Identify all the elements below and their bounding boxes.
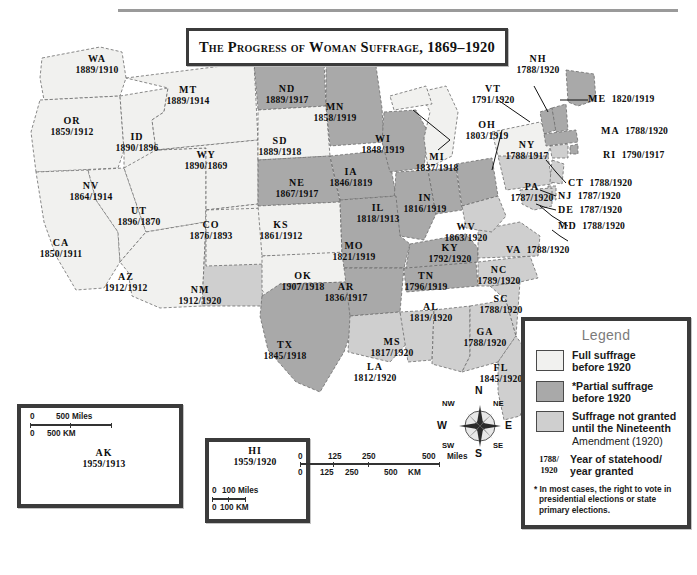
- compass-label-se: SE: [493, 441, 503, 450]
- state-abbr-RI: RI: [603, 149, 616, 160]
- compass-label-sw: SW: [442, 441, 454, 450]
- state-label-MT: MT 1889/1914: [152, 85, 224, 106]
- state-years-NJ: 1787/1920: [578, 190, 621, 201]
- legend-year-key-top: 1788/: [536, 454, 562, 465]
- state-years-CA: 1850/1911: [40, 248, 82, 259]
- state-abbr-VA: VA: [506, 244, 521, 255]
- state-years-MN: 1858/1919: [314, 112, 357, 123]
- state-label-DE: DE 1787/1920: [558, 205, 622, 216]
- state-years-LA: 1812/1920: [354, 372, 397, 383]
- state-label-LA: LA 1812/1920: [340, 362, 410, 383]
- scale-ak-zero-miles: 0: [30, 412, 35, 421]
- scale-miles-tick-3: 500: [422, 452, 436, 461]
- state-abbr-CT: CT: [568, 177, 584, 188]
- scale-miles-tick-0: 0: [298, 452, 303, 461]
- state-years-IL: 1818/1913: [357, 213, 400, 224]
- state-label-CT: CT 1788/1920: [568, 178, 632, 189]
- scale-km-tick-2: 250: [345, 468, 359, 477]
- state-label-NY: NY 1788/1917: [492, 140, 562, 161]
- state-label-AZ: AZ 1912/1912: [91, 272, 161, 293]
- state-years-ME: 1820/1919: [612, 93, 655, 104]
- state-label-GA: GA 1788/1920: [450, 327, 520, 348]
- legend-label-not-granted-line2: until the Nineteenth: [572, 422, 676, 434]
- state-years-MO: 1821/1919: [333, 251, 376, 262]
- state-label-CO: CO 1876/1893: [176, 220, 246, 241]
- state-years-PA: 1787/1920: [511, 192, 554, 203]
- state-label-WA: WA 1889/1910: [62, 54, 132, 75]
- state-label-ME: ME 1820/1919: [588, 94, 655, 105]
- scale-hi-miles-label: 100 Miles: [222, 486, 258, 495]
- state-shape-MIup: [390, 86, 432, 110]
- scale-hi-km-label: 100 KM: [220, 503, 249, 512]
- state-label-NM: NM 1912/1920: [165, 285, 235, 306]
- state-years-UT: 1896/1870: [118, 216, 161, 227]
- state-years-OR: 1859/1912: [51, 126, 94, 137]
- legend-year-key-line2: year granted: [570, 465, 662, 477]
- state-years-DE: 1787/1920: [580, 204, 623, 215]
- state-label-VA: VA 1788/1920: [506, 245, 570, 256]
- state-years-AR: 1836/1917: [325, 292, 368, 303]
- scale-bar-hawaii: 0 100 Miles 0 100 KM: [212, 486, 302, 514]
- state-abbr-ME: ME: [588, 93, 606, 104]
- state-years-MI: 1837/1918: [416, 162, 459, 173]
- state-years-MT: 1889/1914: [167, 95, 210, 106]
- compass-label-e: E: [505, 419, 512, 431]
- state-years-MD: 1788/1920: [582, 220, 625, 231]
- state-years-WY: 1890/1869: [185, 160, 228, 171]
- state-label-NV: NV 1864/1914: [56, 181, 126, 202]
- scale-ak-km-label: 500 KM: [47, 429, 76, 438]
- state-years-RI: 1790/1917: [622, 149, 665, 160]
- legend-year-key-line1: Year of statehood/: [570, 453, 662, 465]
- legend-swatch-partial-suffrage: [536, 381, 564, 402]
- compass-label-n: N: [475, 384, 483, 396]
- state-label-PA: PA 1787/1920: [497, 182, 567, 203]
- legend-item-year-key: 1788/ 1920 Year of statehood/ year grant…: [533, 453, 679, 478]
- legend-item-partial-suffrage: *Partial suffrage before 1920: [533, 380, 679, 405]
- state-abbr-MD: MD: [558, 220, 577, 231]
- compass-rose: N S W E NE SE SW NW: [443, 387, 517, 461]
- state-abbr-DE: DE: [558, 204, 574, 215]
- compass-label-ne: NE: [493, 399, 504, 408]
- state-label-IN: IN 1816/1919: [390, 193, 460, 214]
- state-abbr-NJ: NJ: [558, 190, 572, 201]
- state-years-IA: 1846/1819: [330, 177, 373, 188]
- legend-item-not-granted: Suffrage not granted until the Nineteent…: [533, 410, 679, 447]
- state-years-MS: 1817/1920: [371, 347, 414, 358]
- state-years-VA: 1788/1920: [527, 244, 570, 255]
- state-label-UT: UT 1896/1870: [104, 206, 174, 227]
- state-label-AR: AR 1836/1917: [311, 282, 381, 303]
- state-label-NC: NC 1789/1920: [464, 265, 534, 286]
- state-label-WV: WV 1863/1920: [431, 222, 501, 243]
- state-years-NC: 1789/1920: [478, 275, 521, 286]
- state-label-WY: WY 1890/1869: [171, 150, 241, 171]
- legend-year-key-bottom: 1920: [536, 465, 562, 476]
- scale-km-tick-1: 125: [320, 468, 334, 477]
- legend-label-not-granted-line3: Amendment (1920): [572, 435, 676, 447]
- state-years-SC: 1788/1920: [480, 304, 523, 315]
- state-label-NH: NH 1788/1920: [503, 54, 573, 75]
- state-years-NH: 1788/1920: [517, 64, 560, 75]
- state-years-NY: 1788/1917: [506, 150, 549, 161]
- state-years-NE: 1867/1917: [276, 188, 319, 199]
- state-years-IN: 1816/1919: [404, 203, 447, 214]
- scale-km-tick-0: 0: [298, 468, 303, 477]
- compass-label-s: S: [475, 447, 482, 459]
- state-label-IA: IA 1846/1819: [316, 167, 386, 188]
- state-label-MD: MD 1788/1920: [558, 221, 625, 232]
- state-years-AZ: 1912/1912: [105, 282, 148, 293]
- state-years-TX: 1845/1918: [264, 350, 307, 361]
- state-label-KY: KY 1792/1920: [415, 243, 485, 264]
- scale-km-tick-3: 500: [384, 468, 398, 477]
- state-years-CO: 1876/1893: [190, 230, 233, 241]
- legend-label-partial-suffrage-line2: before 1920: [572, 392, 653, 404]
- state-years-KY: 1792/1920: [429, 253, 472, 264]
- compass-label-w: W: [437, 419, 447, 431]
- state-years-HI: 1959/1920: [234, 456, 277, 467]
- legend-footnote: * In most cases, the right to vote in pr…: [533, 484, 679, 516]
- state-label-CA: CA 1850/1911: [26, 238, 96, 259]
- scale-miles-tick-1: 125: [328, 452, 342, 461]
- state-label-AL: AL 1819/1920: [396, 302, 466, 323]
- legend-item-full-suffrage: Full suffrage before 1920: [533, 349, 679, 374]
- legend-swatch-full-suffrage: [536, 350, 564, 371]
- scale-hi-zero-km: 0: [212, 503, 217, 512]
